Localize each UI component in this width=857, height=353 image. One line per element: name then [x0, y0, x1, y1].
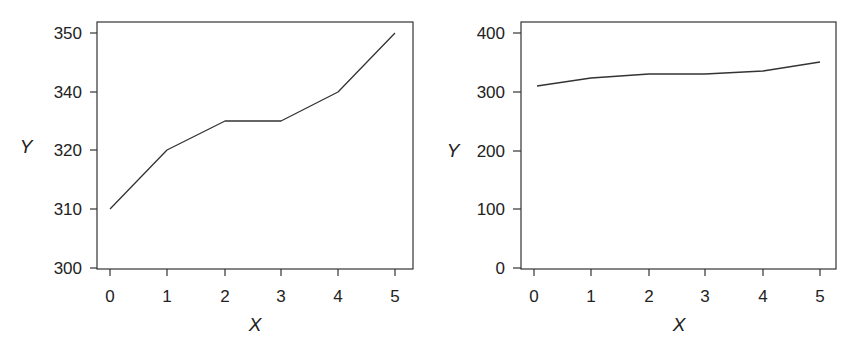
- right-x-axis-label: X: [672, 314, 687, 335]
- right-data-line: [537, 62, 820, 86]
- left-x-tick-label: 4: [333, 287, 342, 306]
- left-y-tick-label: 310: [54, 200, 82, 219]
- right-y-tick-label: 400: [477, 24, 505, 43]
- right-y-tick-label: 200: [477, 142, 505, 161]
- right-x-tick-label: 0: [529, 287, 538, 306]
- left-x-tick-label: 0: [105, 287, 114, 306]
- figure: 350 340 320 310 300 0 1 2 3 4 5 X Y 400 …: [0, 0, 857, 353]
- right-x-tick-label: 5: [815, 287, 824, 306]
- right-x-tick-label: 2: [644, 287, 653, 306]
- right-y-tick-label: 100: [477, 200, 505, 219]
- right-x-tick-label: 1: [586, 287, 595, 306]
- right-chart: 400 300 200 100 0 0 1 2 3 4 5 X Y: [447, 22, 836, 335]
- right-y-axis-label: Y: [447, 140, 461, 161]
- right-x-tick-label: 4: [758, 287, 767, 306]
- left-y-tick-label: 300: [54, 259, 82, 278]
- right-y-tick-label: 0: [496, 259, 505, 278]
- left-chart: 350 340 320 310 300 0 1 2 3 4 5 X Y: [20, 22, 413, 335]
- left-y-tick-label: 340: [54, 83, 82, 102]
- left-x-axis-label: X: [248, 314, 263, 335]
- left-y-axis-label: Y: [20, 136, 34, 157]
- left-plot-frame: [97, 22, 413, 269]
- left-x-tick-label: 1: [162, 287, 171, 306]
- left-x-tick-label: 3: [276, 287, 285, 306]
- right-y-tick-label: 300: [477, 83, 505, 102]
- left-y-tick-label: 320: [54, 141, 82, 160]
- left-data-line: [110, 33, 395, 209]
- left-x-tick-label: 5: [390, 287, 399, 306]
- right-plot-frame: [521, 22, 836, 269]
- right-x-tick-label: 3: [700, 287, 709, 306]
- left-x-tick-label: 2: [220, 287, 229, 306]
- left-y-tick-label: 350: [54, 24, 82, 43]
